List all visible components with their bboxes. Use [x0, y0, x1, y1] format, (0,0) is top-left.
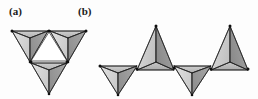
vertex-node	[85, 30, 88, 33]
tetrahedra-diagram	[0, 0, 258, 99]
tetrahedron-b-3-down	[173, 66, 212, 96]
vertex-node	[30, 61, 33, 64]
vertex-node	[191, 94, 194, 97]
vertex-node	[66, 61, 69, 64]
vertex-node	[229, 25, 232, 28]
panel-a-cluster	[11, 29, 88, 95]
figure-root: (a) (b)	[0, 0, 258, 99]
vertex-node	[210, 68, 213, 71]
tetrahedron-b-2-up	[136, 25, 175, 71]
vertex-node	[117, 94, 120, 97]
tetrahedron-a-bottom	[30, 61, 69, 96]
vertex-node	[99, 65, 102, 68]
panel-b-chain	[99, 25, 250, 97]
tetrahedron-b-4-up	[210, 25, 250, 71]
vertex-node	[48, 93, 51, 96]
vertex-node	[136, 68, 139, 71]
vertex-node	[155, 25, 158, 28]
vertex-node	[11, 30, 14, 33]
vertex-node	[173, 67, 176, 70]
tetrahedron-b-1-down	[99, 65, 138, 97]
vertex-node	[247, 68, 250, 71]
